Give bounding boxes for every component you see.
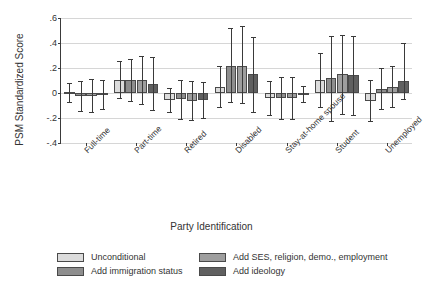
error-bar-cap — [279, 77, 284, 78]
bar-group — [262, 18, 312, 143]
error-bar-cap — [251, 112, 256, 113]
legend-label: Add immigration status — [91, 266, 183, 276]
error-bar-cap — [178, 119, 183, 120]
legend-swatch-icon — [199, 253, 226, 262]
error-bar — [69, 83, 70, 102]
error-bar-cap — [78, 81, 83, 82]
error-bar-cap — [379, 68, 384, 69]
error-bar-cap — [67, 102, 72, 103]
error-bar — [220, 66, 221, 107]
error-bar — [303, 86, 304, 102]
error-bar-cap — [267, 115, 272, 116]
error-bar — [103, 80, 104, 109]
error-bar — [320, 53, 321, 107]
bar-group — [211, 18, 261, 143]
error-bar-cap — [240, 26, 245, 27]
error-bar-cap — [267, 81, 272, 82]
error-bar — [142, 56, 143, 105]
error-bar-cap — [139, 104, 144, 105]
error-bar-cap — [368, 121, 373, 122]
bar-group — [362, 18, 412, 143]
error-bar-cap — [290, 77, 295, 78]
legend-label: Add ideology — [233, 266, 285, 276]
y-tick-label: .2 — [49, 64, 57, 73]
legend-item-add-ses: Add SES, religion, demo., employment — [199, 252, 388, 262]
error-bar — [192, 81, 193, 120]
error-bar — [253, 37, 254, 112]
error-bar — [203, 82, 204, 118]
error-bar — [181, 80, 182, 119]
error-bar — [131, 59, 132, 102]
error-bar-cap — [301, 86, 306, 87]
error-bar-cap — [340, 114, 345, 115]
error-bar-cap — [390, 107, 395, 108]
error-bar-cap — [78, 111, 83, 112]
error-bar-cap — [89, 79, 94, 80]
error-bar — [153, 57, 154, 110]
error-bar-cap — [251, 37, 256, 38]
error-bar — [404, 43, 405, 99]
error-bar — [281, 77, 282, 118]
error-bar — [270, 81, 271, 115]
error-bar-cap — [100, 109, 105, 110]
error-bar-cap — [301, 102, 306, 103]
error-bar-cap — [201, 82, 206, 83]
error-bar-cap — [189, 120, 194, 121]
error-bar-cap — [368, 80, 373, 81]
error-bar-cap — [201, 118, 206, 119]
legend-label: Add SES, religion, demo., employment — [233, 252, 388, 262]
error-bar — [231, 28, 232, 102]
error-bar — [353, 36, 354, 115]
y-tick-mark — [58, 143, 61, 144]
y-tick-label: -.2 — [46, 114, 57, 123]
error-bar — [292, 77, 293, 120]
error-bar-cap — [178, 80, 183, 81]
error-bar-cap — [228, 102, 233, 103]
y-tick-label: .4 — [49, 39, 57, 48]
bar-group — [61, 18, 111, 143]
error-bar-cap — [150, 57, 155, 58]
legend-swatch-icon — [199, 267, 226, 276]
error-bar-cap — [89, 112, 94, 113]
legend-label: Unconditional — [91, 252, 146, 262]
error-bar-cap — [401, 43, 406, 44]
error-bar-cap — [290, 119, 295, 120]
error-bar-cap — [329, 36, 334, 37]
error-bar-cap — [351, 115, 356, 116]
legend-swatch-icon — [57, 267, 84, 276]
error-bar-cap — [100, 80, 105, 81]
error-bar — [392, 66, 393, 107]
error-bar — [370, 80, 371, 121]
legend-item-add-ideology: Add ideology — [199, 266, 285, 276]
plot-area: .6.4.20-.2-.4 — [60, 18, 412, 144]
legend-item-add-immigration: Add immigration status — [57, 266, 199, 276]
error-bar-cap — [139, 56, 144, 57]
error-bar-cap — [167, 88, 172, 89]
error-bar — [381, 68, 382, 109]
error-bar-cap — [167, 112, 172, 113]
legend-row: Unconditional Add SES, religion, demo., … — [57, 250, 407, 264]
error-bar-cap — [340, 35, 345, 36]
chart-legend: Unconditional Add SES, religion, demo., … — [57, 250, 407, 278]
error-bar-cap — [128, 59, 133, 60]
error-bar-cap — [117, 61, 122, 62]
y-axis-title: PSM Standardized Score — [14, 15, 25, 165]
error-bar — [120, 61, 121, 98]
bar-group — [161, 18, 211, 143]
y-tick-label: 0 — [52, 89, 57, 98]
legend-row: Add immigration status Add ideology — [57, 264, 407, 278]
error-bar-cap — [228, 28, 233, 29]
error-bar-cap — [240, 103, 245, 104]
chart-container: PSM Standardized Score .6.4.20-.2-.4 Par… — [0, 0, 423, 289]
error-bar-cap — [217, 107, 222, 108]
error-bar — [242, 26, 243, 104]
x-axis-title: Party Identification — [0, 221, 423, 232]
error-bar-cap — [318, 53, 323, 54]
error-bar-cap — [67, 83, 72, 84]
error-bar — [170, 88, 171, 112]
error-bar — [92, 79, 93, 113]
legend-item-unconditional: Unconditional — [57, 252, 199, 262]
bar-group — [111, 18, 161, 143]
error-bar-cap — [217, 66, 222, 67]
error-bar-cap — [117, 98, 122, 99]
